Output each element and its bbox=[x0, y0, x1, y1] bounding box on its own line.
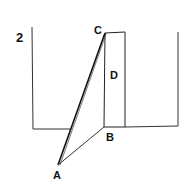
right-floor-and-wall bbox=[125, 32, 178, 127]
geometry-diagram: 2 C D B A bbox=[0, 0, 189, 187]
point-c-label: C bbox=[94, 24, 102, 36]
point-d-label: D bbox=[110, 69, 118, 81]
point-b-label: B bbox=[106, 131, 114, 143]
segment-ac-inner bbox=[60, 34, 106, 165]
point-a-label: A bbox=[53, 169, 61, 181]
figure-number: 2 bbox=[16, 30, 23, 45]
left-wall bbox=[32, 27, 70, 129]
